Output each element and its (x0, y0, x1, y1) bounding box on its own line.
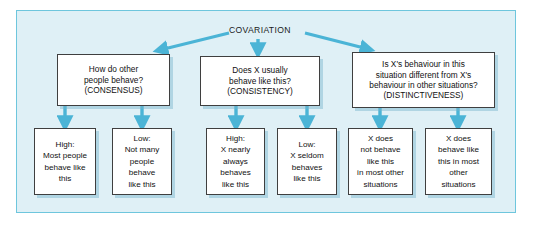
covariation-diagram: COVARIATION How do otherpeople behave?(C… (0, 0, 533, 227)
text-line: X does (357, 133, 404, 144)
node-consensus: How do otherpeople behave?(CONSENSUS) (57, 54, 170, 106)
text-line: X seldom (290, 150, 324, 161)
text-line: situations (357, 179, 404, 190)
text-line: like this (357, 156, 404, 167)
text-line: (DISTINCTIVENESS) (369, 90, 477, 100)
text-line: not behave (357, 144, 404, 155)
text-line: Not many (125, 144, 160, 155)
node-consensus-low-text: Low:Not manypeoplebehavelike this (123, 133, 162, 190)
node-consistency-text: Does X usuallybehave like this?(CONSISTE… (225, 65, 294, 96)
text-line: this (43, 173, 87, 184)
node-consensus-high-text: High:Most peoplebehave likethis (41, 139, 89, 185)
text-line: like this (220, 179, 251, 190)
text-line: behaviour in other situations? (369, 80, 477, 90)
node-distinctiveness-high-text: X doesnot behavelike thisin most othersi… (355, 133, 406, 190)
text-line: X does (438, 133, 479, 144)
text-line: situation different from X's (369, 70, 477, 80)
text-line: behave like (438, 144, 479, 155)
node-consistency-low-text: Low:X seldombehaveslike this (288, 139, 326, 185)
text-line: behaves (290, 162, 324, 173)
text-line: (CONSENSUS) (84, 85, 143, 95)
diagram-title: COVARIATION (229, 25, 291, 35)
text-line: situations (438, 179, 479, 190)
text-line: Low: (290, 139, 324, 150)
node-distinctiveness-low-text: X doesbehave likethis in mostothersituat… (436, 133, 481, 190)
text-line: people behave? (84, 75, 143, 85)
node-distinctiveness-text: Is X's behaviour in thissituation differ… (367, 59, 479, 101)
text-line: Low: (125, 133, 160, 144)
text-line: X nearly (220, 144, 251, 155)
node-consistency-low: Low:X seldombehaveslike this (277, 128, 337, 195)
text-line: like this (290, 173, 324, 184)
node-consistency-high: High:X nearlyalwaysbehaveslike this (206, 128, 265, 195)
node-consistency: Does X usuallybehave like this?(CONSISTE… (200, 56, 320, 106)
text-line: behave like (43, 162, 87, 173)
text-line: always (220, 156, 251, 167)
text-line: behave (125, 167, 160, 178)
node-consensus-text: How do otherpeople behave?(CONSENSUS) (82, 64, 145, 95)
text-line: in most other (357, 167, 404, 178)
text-line: How do other (84, 64, 143, 74)
text-line: High: (43, 139, 87, 150)
text-line: people (125, 156, 160, 167)
node-consensus-low: Low:Not manypeoplebehavelike this (112, 128, 172, 195)
text-line: this in most (438, 156, 479, 167)
text-line: like this (125, 179, 160, 190)
node-distinctiveness: Is X's behaviour in thissituation differ… (352, 52, 495, 108)
text-line: Most people (43, 150, 87, 161)
text-line: High: (220, 133, 251, 144)
text-line: behaves (220, 167, 251, 178)
node-distinctiveness-low: X doesbehave likethis in mostothersituat… (425, 128, 492, 195)
text-line: Does X usually (227, 65, 292, 75)
node-consensus-high: High:Most peoplebehave likethis (34, 128, 96, 195)
text-line: behave like this? (227, 76, 292, 86)
text-line: (CONSISTENCY) (227, 86, 292, 96)
text-line: other (438, 167, 479, 178)
text-line: Is X's behaviour in this (369, 59, 477, 69)
node-consistency-high-text: High:X nearlyalwaysbehaveslike this (218, 133, 253, 190)
node-distinctiveness-high: X doesnot behavelike thisin most othersi… (348, 128, 413, 195)
